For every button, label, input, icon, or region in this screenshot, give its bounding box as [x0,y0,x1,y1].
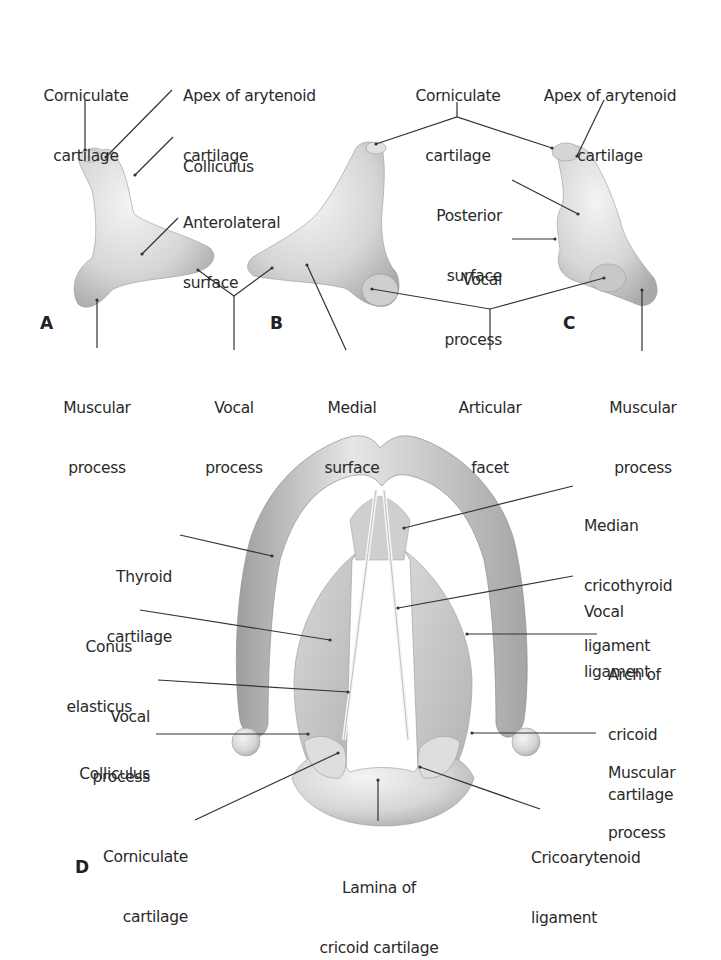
label-line: Median [584,516,672,536]
label-line: cricoid [608,725,673,745]
label-d-colliculus: Colliculus [50,724,150,804]
label-line: cartilage [410,146,506,166]
label-line: Conus [50,637,132,657]
label-c-vocal-process: Vocal process [420,230,502,370]
label-line: Colliculus [50,764,150,784]
label-line: ligament [584,636,672,656]
label-ab-vocal-process: Vocal process [194,358,274,498]
label-line: Vocal [420,270,502,290]
label-bc-corniculate-cartilage: Corniculate cartilage [410,46,506,186]
label-line: Apex of arytenoid [183,86,316,106]
label-line: Muscular [598,398,688,418]
label-line: Corniculate [100,847,188,867]
label-d-lamina-of-cricoid: Lamina of cricoid cartilage [306,838,452,960]
panel-letter-a: A [40,313,53,333]
label-line: process [598,458,688,478]
label-line: facet [448,458,532,478]
label-b-medial-surface: Medial surface [312,358,392,498]
label-a-anterolateral-surface: Anterolateral surface [183,173,280,313]
panel-letter-b: B [270,313,283,333]
label-line: Lamina of [306,878,452,898]
label-line: Thyroid [80,567,172,587]
label-line: Corniculate [38,86,134,106]
label-d-corniculate-cartilage: Corniculate cartilage [100,807,188,947]
label-line: Articular [448,398,532,418]
label-line: process [420,330,502,350]
label-line: Apex of arytenoid [540,86,680,106]
label-line: cartilage [540,146,680,166]
label-line: Anterolateral [183,213,280,233]
label-a-corniculate-cartilage: Corniculate cartilage [38,46,134,186]
label-bc-articular-facet: Articular facet [448,358,532,498]
label-line: cricoid cartilage [306,938,452,958]
label-line: Muscular [52,398,142,418]
label-line: surface [312,458,392,478]
label-line: process [194,458,274,478]
label-line: surface [183,273,280,293]
label-line: cricothyroid [584,576,672,596]
label-a-muscular-process: Muscular process [52,358,142,498]
label-line: ligament [531,908,640,928]
label-line: process [608,823,675,843]
panel-letter-d: D [75,857,89,877]
cricoid-lamina-shape [292,736,474,826]
label-line: cartilage [38,146,134,166]
label-line: cartilage [100,907,188,927]
label-line: cartilage [608,785,673,805]
label-d-median-cricothyroid: Median cricothyroid ligament [584,476,672,676]
label-c-apex-of-arytenoid: Apex of arytenoid cartilage [540,46,680,186]
label-line: Medial [312,398,392,418]
panel-letter-c: C [563,313,575,333]
label-line: Vocal [194,398,274,418]
conus-elasticus-shape [294,496,472,770]
label-line: process [52,458,142,478]
label-line: Posterior [420,206,502,226]
label-line: Corniculate [410,86,506,106]
